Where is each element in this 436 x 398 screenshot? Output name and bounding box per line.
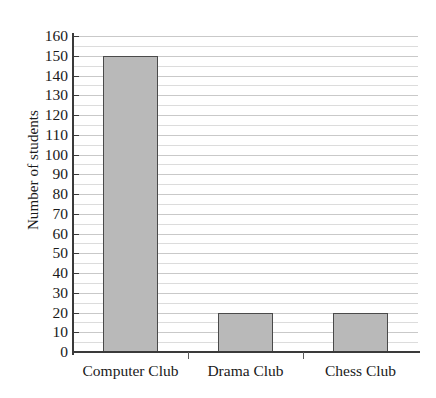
y-axis-tick-label: 140 xyxy=(30,68,68,84)
y-axis-tick-label: 100 xyxy=(30,147,68,163)
x-axis-category-tick xyxy=(188,352,189,359)
y-axis-tick xyxy=(73,56,79,57)
y-axis-tick-label: 60 xyxy=(30,226,68,242)
y-axis-tick-label: 0 xyxy=(30,344,68,360)
y-axis-tick-label: 30 xyxy=(30,285,68,301)
y-axis-tick-label: 160 xyxy=(30,28,68,44)
y-axis-tick xyxy=(73,36,79,37)
y-axis-tick xyxy=(73,95,79,96)
y-axis-tick-labels: 0102030405060708090100110120130140150160 xyxy=(26,0,68,398)
bar-chart: Number of students 010203040506070809010… xyxy=(0,0,436,398)
y-axis-tick xyxy=(73,115,79,116)
y-axis-tick-label: 130 xyxy=(30,87,68,103)
y-axis-tick-label: 40 xyxy=(30,265,68,281)
y-axis-tick-label: 150 xyxy=(30,48,68,64)
y-axis-tick xyxy=(73,293,79,294)
bar xyxy=(333,313,388,353)
plot-area xyxy=(73,36,418,352)
y-axis-tick xyxy=(73,253,79,254)
x-axis-category-label: Drama Club xyxy=(188,361,303,380)
gridline-minor xyxy=(73,46,418,47)
gridline-major xyxy=(73,36,418,37)
x-axis-category-label: Computer Club xyxy=(73,361,188,380)
y-axis-tick xyxy=(73,313,79,314)
x-axis-line xyxy=(72,351,420,353)
x-axis-category-label: Chess Club xyxy=(303,361,418,380)
y-axis-tick-label: 90 xyxy=(30,166,68,182)
y-axis-tick xyxy=(73,155,79,156)
y-axis-tick xyxy=(73,76,79,77)
x-axis-category-tick xyxy=(303,352,304,359)
y-axis-tick xyxy=(73,214,79,215)
y-axis-tick-label: 80 xyxy=(30,186,68,202)
y-axis-tick xyxy=(73,273,79,274)
y-axis-tick xyxy=(73,135,79,136)
y-axis-tick-label: 70 xyxy=(30,206,68,222)
y-axis-tick-label: 120 xyxy=(30,107,68,123)
y-axis-tick xyxy=(73,194,79,195)
bar xyxy=(218,313,273,353)
y-axis-tick xyxy=(73,234,79,235)
y-axis-tick-label: 50 xyxy=(30,245,68,261)
y-axis-tick xyxy=(73,174,79,175)
bar xyxy=(103,56,158,352)
y-axis-tick-label: 110 xyxy=(30,127,68,143)
y-axis-tick xyxy=(73,332,79,333)
y-axis-tick-label: 10 xyxy=(30,324,68,340)
y-axis-tick xyxy=(73,352,79,353)
y-axis-tick-label: 20 xyxy=(30,305,68,321)
